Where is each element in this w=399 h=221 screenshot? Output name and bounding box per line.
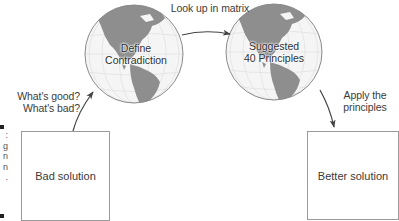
node-label-line1: Suggested: [242, 40, 306, 52]
node-label: Better solution: [318, 170, 388, 182]
node-bad-solution: Bad solution: [21, 131, 110, 221]
caption-fragment: .: [0, 172, 8, 183]
edge-label-whats-good-bad: What's good? What's bad?: [8, 90, 80, 114]
node-label-line2: 40 Principles: [242, 52, 306, 64]
caption-fragment: n: [0, 162, 8, 173]
edge-label-line2: principles: [336, 101, 394, 113]
arrow-suggested-to-better: [320, 90, 334, 127]
caption-fragment: n: [0, 151, 8, 162]
edge-label-apply-principles: Apply the principles: [336, 89, 394, 113]
node-suggested-principles: Suggested 40 Principles: [242, 40, 306, 64]
edge-label-look-up: Look up in matrix: [160, 2, 260, 14]
caption-marker: [0, 214, 4, 218]
node-label-line1: Define: [104, 42, 168, 54]
clipped-caption: : g n n .: [0, 130, 8, 183]
caption-fragment: g: [0, 141, 8, 152]
caption-fragment: :: [0, 130, 8, 141]
edge-label-line2: What's bad?: [8, 102, 80, 114]
node-label: Bad solution: [35, 170, 96, 182]
node-define-contradiction: Define Contradiction: [104, 42, 168, 66]
edge-label-line1: What's good?: [8, 90, 80, 102]
node-better-solution: Better solution: [307, 131, 399, 220]
arrow-define-to-suggested: [182, 32, 230, 35]
caption-marker: [0, 125, 4, 129]
node-label-line2: Contradiction: [104, 54, 168, 66]
edge-label-line1: Apply the: [336, 89, 394, 101]
